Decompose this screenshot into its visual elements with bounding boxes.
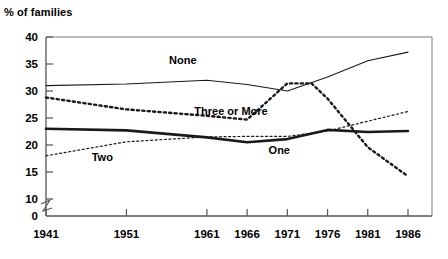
- y-tick-label: 25: [25, 112, 38, 124]
- x-tick-label: 1951: [114, 228, 140, 240]
- x-tick-label: 1966: [234, 228, 260, 240]
- series-line-two: [46, 112, 408, 156]
- y-tick-label: 35: [25, 58, 38, 70]
- series-label-none: None: [169, 54, 197, 66]
- x-tick-label: 1976: [315, 228, 341, 240]
- x-tick-label: 1981: [355, 228, 381, 240]
- x-tick-label: 1941: [33, 228, 59, 240]
- y-tick-label: 40: [25, 31, 38, 43]
- x-tick-label: 1961: [194, 228, 220, 240]
- plot-frame: [46, 37, 432, 216]
- line-chart-plot: 010152025303540 194119511961196619711976…: [0, 0, 448, 259]
- series-label-three-or-more: Three or More: [194, 105, 267, 117]
- axis-break-zigzag: [41, 200, 52, 211]
- series-label-one: One: [269, 144, 290, 156]
- chart-container: % of families 010152025303540 1941195119…: [0, 0, 448, 259]
- y-axis-ticks: 010152025303540: [25, 31, 53, 222]
- y-tick-label: 20: [25, 139, 38, 151]
- series-line-one: [46, 129, 408, 143]
- y-tick-label: 15: [25, 166, 38, 178]
- x-tick-label: 1971: [275, 228, 301, 240]
- series-label-two: Two: [92, 151, 113, 163]
- y-axis-break-icon: [41, 200, 52, 211]
- y-tick-label: 30: [25, 85, 38, 97]
- plot-border: [46, 37, 432, 216]
- x-tick-label: 1986: [395, 228, 421, 240]
- series-line-none: [46, 52, 408, 91]
- y-tick-label: 10: [25, 193, 38, 205]
- y-tick-label: 0: [32, 210, 38, 222]
- x-axis-ticks: 19411951196119661971197619811986: [33, 209, 421, 240]
